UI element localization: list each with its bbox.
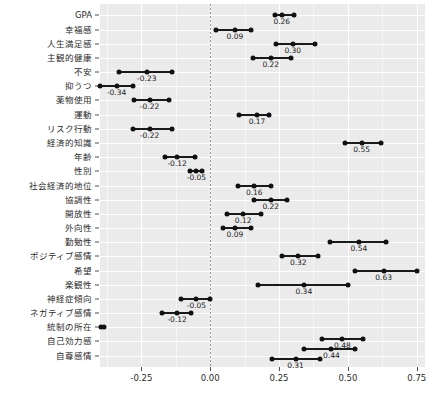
- interval-endpoint: [235, 183, 240, 188]
- y-axis-label: 協調性: [65, 195, 92, 204]
- y-axis-label: 自己効力感: [47, 337, 92, 346]
- interval-endpoint: [188, 311, 193, 316]
- interval-endpoint: [259, 211, 264, 216]
- x-axis-tick: [210, 367, 211, 371]
- zero-reference-line: [210, 4, 211, 367]
- y-axis-label: 統制の所在: [47, 323, 92, 332]
- y-axis-label: 主観的健康: [47, 54, 92, 63]
- data-value-label: 0.26: [273, 18, 290, 26]
- interval-endpoint: [378, 140, 383, 145]
- interval-endpoint: [208, 296, 213, 301]
- interval-endpoint: [361, 337, 366, 342]
- gridline-row: [100, 313, 425, 314]
- interval-endpoint: [179, 296, 184, 301]
- gridline-row: [100, 44, 425, 45]
- interval-endpoint: [131, 84, 136, 89]
- y-axis-label: 開放性: [65, 210, 92, 219]
- y-axis-label: 運動: [74, 110, 92, 119]
- y-axis-label: 薬物使用: [56, 96, 92, 105]
- interval-endpoint: [327, 240, 332, 245]
- interval-endpoint: [169, 126, 174, 131]
- data-value-label: 0.17: [249, 118, 266, 126]
- interval-endpoint: [289, 55, 294, 60]
- x-axis-tick: [279, 367, 280, 371]
- interval-endpoint: [274, 41, 279, 46]
- y-axis-tick: [95, 341, 99, 342]
- y-axis-tick: [95, 313, 99, 314]
- interval-endpoint: [319, 337, 324, 342]
- interval-endpoint: [292, 13, 297, 18]
- y-axis-label: 社会経済的地位: [29, 181, 92, 190]
- confidence-interval: [133, 128, 172, 130]
- y-axis-tick: [95, 199, 99, 200]
- y-axis-tick: [95, 213, 99, 214]
- gridline-row: [100, 86, 425, 87]
- y-axis-tick: [95, 228, 99, 229]
- interval-endpoint: [166, 98, 171, 103]
- y-axis-tick: [95, 256, 99, 257]
- interval-endpoint: [159, 311, 164, 316]
- interval-endpoint: [169, 70, 174, 75]
- interval-endpoint: [318, 357, 323, 362]
- y-axis-label: ポジティブ感情: [30, 252, 92, 261]
- y-axis-tick: [95, 157, 99, 158]
- interval-endpoint: [250, 55, 255, 60]
- y-axis-label: 勤勉性: [65, 238, 92, 247]
- gridline-row: [100, 171, 425, 172]
- gridline-row: [100, 228, 425, 229]
- data-value-label: 0.09: [227, 33, 244, 41]
- x-axis-tick: [141, 367, 142, 371]
- gridline-row: [100, 327, 425, 328]
- gridline-row: [100, 356, 425, 357]
- x-axis-tick-label: 0.00: [201, 373, 220, 383]
- gridline-row: [100, 15, 425, 16]
- data-value-label: -0.22: [140, 103, 159, 111]
- y-axis-tick: [95, 43, 99, 44]
- interval-endpoint: [220, 226, 225, 231]
- interval-endpoint: [224, 211, 229, 216]
- interval-endpoint: [414, 268, 419, 273]
- interval-endpoint: [384, 240, 389, 245]
- y-axis-labels: GPA幸福感人生満足感主観的健康不安抑うつ薬物使用運動リスク行動経済的知識年齢性…: [0, 0, 100, 367]
- interval-endpoint: [252, 197, 257, 202]
- y-axis-label: 幸福感: [65, 25, 92, 34]
- interval-endpoint: [352, 347, 357, 352]
- y-axis-label: 不安: [74, 68, 92, 77]
- y-axis-tick: [95, 114, 99, 115]
- x-axis-tick-label: 0.25: [270, 373, 289, 383]
- x-axis-tick: [348, 367, 349, 371]
- y-axis-label: 外向性: [65, 224, 92, 233]
- gridline-row: [100, 299, 425, 300]
- data-value-label: 0.22: [262, 203, 279, 211]
- gridline-row: [100, 157, 425, 158]
- y-axis-tick: [95, 298, 99, 299]
- interval-endpoint: [249, 27, 254, 32]
- x-axis-tick-label: 0.75: [407, 373, 426, 383]
- y-axis-label: GPA: [75, 11, 92, 20]
- interval-endpoint: [117, 70, 122, 75]
- data-value-label: -0.12: [167, 160, 186, 168]
- y-axis-label: リスク行動: [47, 125, 92, 134]
- y-axis-tick: [95, 270, 99, 271]
- y-axis-tick: [95, 355, 99, 356]
- confidence-interval: [165, 156, 195, 158]
- y-axis-tick: [95, 284, 99, 285]
- y-axis-tick: [95, 242, 99, 243]
- interval-endpoint: [352, 268, 357, 273]
- y-axis-label: 神経症傾向: [47, 295, 92, 304]
- data-value-label: 0.32: [290, 259, 307, 267]
- data-value-label: 0.55: [353, 146, 370, 154]
- interval-endpoint: [237, 112, 242, 117]
- y-axis-label: 経済的知識: [47, 139, 92, 148]
- interval-endpoint: [131, 126, 136, 131]
- data-value-label: 0.34: [295, 288, 312, 296]
- y-axis-tick: [95, 128, 99, 129]
- interval-endpoint: [267, 112, 272, 117]
- data-value-label: 0.30: [284, 47, 301, 55]
- interval-endpoint: [315, 254, 320, 259]
- data-value-label: 0.22: [262, 61, 279, 69]
- y-axis-label: 希望: [74, 266, 92, 275]
- y-axis-tick: [95, 15, 99, 16]
- x-axis-tick-label: -0.25: [130, 373, 152, 383]
- data-value-label: -0.34: [107, 89, 126, 97]
